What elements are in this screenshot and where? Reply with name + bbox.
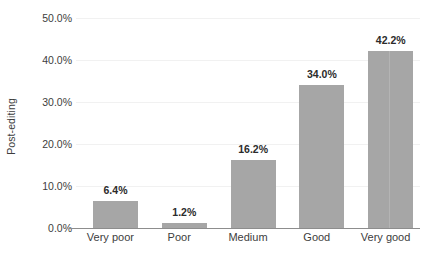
bar[interactable] [231, 160, 276, 228]
bar[interactable] [299, 85, 344, 228]
bar-slot: 34.0% [299, 18, 344, 228]
bar-slot: 1.2% [162, 18, 207, 228]
bar-chart: Post-editing 0.0%10.0%20.0%30.0%40.0%50.… [0, 0, 437, 253]
bar-slot: 16.2% [231, 18, 276, 228]
y-axis-title: Post-editing [0, 0, 22, 253]
bar-value-label: 16.2% [238, 143, 268, 155]
y-axis-tick-labels: 0.0%10.0%20.0%30.0%40.0%50.0% [22, 0, 72, 253]
x-axis-category-labels: Very poorPoorMediumGoodVery good [76, 231, 420, 251]
bar[interactable] [93, 201, 138, 228]
y-tick-label: 50.0% [22, 12, 72, 24]
x-category-label: Good [282, 231, 351, 243]
bar-slot: 6.4% [93, 18, 138, 228]
plot-area: 6.4%1.2%16.2%34.0%42.2% [76, 18, 420, 228]
bar[interactable] [368, 51, 413, 228]
bar-value-label: 6.4% [104, 184, 128, 196]
x-category-label: Very poor [76, 231, 145, 243]
bar-series: 6.4%1.2%16.2%34.0%42.2% [76, 18, 420, 228]
x-axis-baseline [76, 228, 420, 229]
y-tick-label: 40.0% [22, 54, 72, 66]
y-tick-label: 20.0% [22, 138, 72, 150]
x-category-label: Medium [214, 231, 283, 243]
bar-value-label: 42.2% [376, 34, 406, 46]
bar-value-label: 1.2% [172, 206, 196, 218]
bar-slot: 42.2% [368, 18, 413, 228]
y-tick-label: 10.0% [22, 180, 72, 192]
y-tick-label: 30.0% [22, 96, 72, 108]
x-category-label: Very good [351, 231, 420, 243]
bar-value-label: 34.0% [307, 68, 337, 80]
x-category-label: Poor [145, 231, 214, 243]
y-tick-label: 0.0% [22, 222, 72, 234]
